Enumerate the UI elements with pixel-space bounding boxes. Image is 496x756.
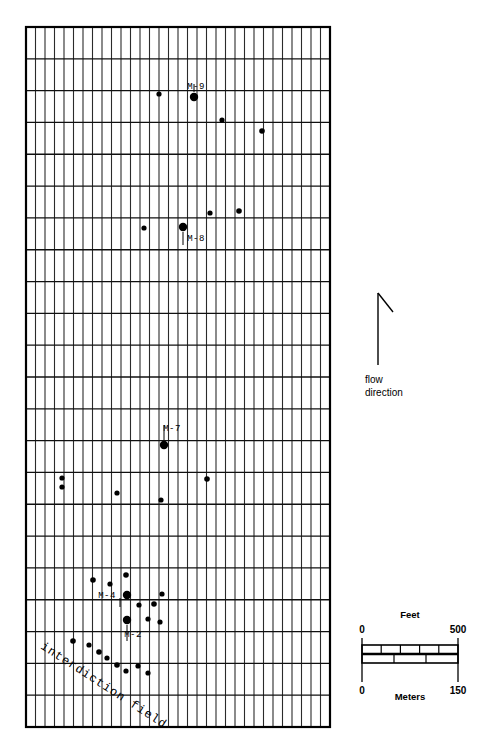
- sample-point: [135, 663, 140, 668]
- well-label: M-4: [98, 591, 116, 601]
- well-label: M-7: [163, 424, 181, 434]
- sample-point: [59, 475, 64, 480]
- scale-label-meters-min: 0: [359, 685, 365, 696]
- sample-point: [123, 572, 129, 578]
- scale-caption-feet: Feet: [400, 609, 420, 620]
- well-label: M-8: [187, 234, 205, 244]
- sample-point: [156, 91, 161, 96]
- figure-canvas: M-9M-8M-7M-4M-2 interdiction field flowd…: [0, 0, 496, 756]
- sample-point: [104, 655, 109, 660]
- flow-caption-line2: direction: [365, 387, 403, 398]
- sample-point: [207, 210, 212, 215]
- scale-caption-meters: Meters: [395, 691, 426, 702]
- well-label: M-2: [124, 630, 142, 640]
- sample-point: [114, 662, 120, 668]
- well-marker[interactable]: [123, 616, 131, 624]
- sample-point: [145, 670, 150, 675]
- sample-point: [259, 128, 265, 134]
- sample-point: [145, 616, 150, 621]
- site-grid: [26, 27, 330, 727]
- sample-point: [107, 581, 112, 586]
- scale-label-feet-max: 500: [450, 624, 467, 635]
- sample-point: [136, 602, 141, 607]
- scale-label-feet-min: 0: [359, 624, 365, 635]
- well-marker[interactable]: [179, 223, 187, 231]
- sample-point: [204, 476, 210, 482]
- sample-point: [86, 642, 91, 647]
- sample-point: [219, 117, 224, 122]
- well-marker[interactable]: [190, 93, 198, 101]
- well-marker[interactable]: [160, 441, 168, 449]
- sample-point: [157, 619, 162, 624]
- sample-point: [123, 668, 128, 673]
- sample-point: [159, 591, 164, 596]
- sample-point: [114, 490, 119, 495]
- sample-point: [141, 225, 146, 230]
- sample-point: [90, 577, 96, 583]
- sample-point: [70, 638, 76, 644]
- sample-point: [59, 484, 64, 489]
- sample-point: [96, 649, 102, 655]
- plan-map-svg: M-9M-8M-7M-4M-2 interdiction field flowd…: [0, 0, 496, 756]
- scale-label-meters-max: 150: [450, 685, 467, 696]
- well-label: M-9: [187, 82, 205, 92]
- sample-point: [236, 208, 242, 214]
- flow-caption-line1: flow: [365, 374, 384, 385]
- sample-point: [151, 601, 157, 607]
- sample-point: [158, 497, 163, 502]
- well-marker[interactable]: [123, 591, 131, 599]
